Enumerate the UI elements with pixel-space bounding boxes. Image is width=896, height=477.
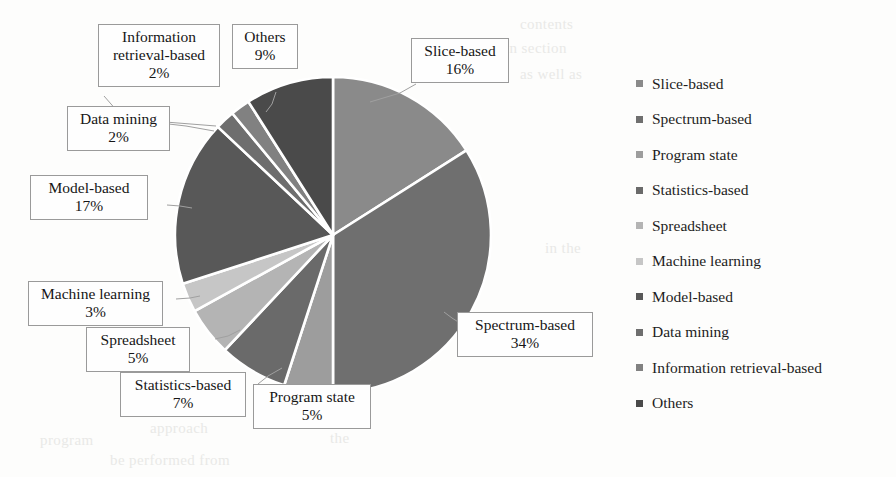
legend-item[interactable]: Machine learning <box>636 244 886 280</box>
callout-percent: 2% <box>75 128 162 146</box>
legend-swatch-icon <box>636 151 643 158</box>
callout-label: Others <box>244 28 285 45</box>
bleed-text: in section <box>505 40 567 57</box>
callout-label: Program state <box>269 388 355 405</box>
legend-item-label: Slice-based <box>652 75 723 93</box>
legend-item[interactable]: Spreadsheet <box>636 208 886 244</box>
callout-label: Model-based <box>49 179 130 196</box>
callout-label: Statistics-based <box>135 376 231 393</box>
callout-percent: 34% <box>465 334 585 352</box>
pie-chart-svg <box>173 75 493 395</box>
legend-item[interactable]: Program state <box>636 137 886 173</box>
callout-label-line1: Information <box>122 28 196 45</box>
callout-percent: 2% <box>106 64 212 82</box>
callout-spreadsheet: Spreadsheet 5% <box>86 327 190 372</box>
legend-swatch-icon <box>636 222 643 229</box>
bleed-text: as well as <box>520 66 582 83</box>
callout-percent: 7% <box>128 394 238 412</box>
callout-percent: 9% <box>240 46 290 64</box>
callout-machine-learning: Machine learning 3% <box>28 281 163 326</box>
legend-item-label: Statistics-based <box>652 181 748 199</box>
legend-item[interactable]: Slice-based <box>636 66 886 102</box>
legend-swatch-icon <box>636 80 643 87</box>
legend: Slice-basedSpectrum-basedProgram stateSt… <box>636 66 886 421</box>
bleed-text: program <box>40 432 94 449</box>
bleed-text: contents <box>520 16 573 33</box>
callout-others: Others 9% <box>232 24 298 69</box>
legend-item-label: Model-based <box>652 288 733 306</box>
legend-swatch-icon <box>636 329 643 336</box>
legend-swatch-icon <box>636 116 643 123</box>
legend-item-label: Spectrum-based <box>652 110 752 128</box>
callout-spectrum-based: Spectrum-based 34% <box>457 312 593 357</box>
bleed-text: in the <box>545 240 581 257</box>
callout-model-based: Model-based 17% <box>30 175 148 220</box>
legend-item-label: Program state <box>652 146 738 164</box>
legend-item-label: Information retrieval-based <box>652 359 822 377</box>
legend-item[interactable]: Model-based <box>636 279 886 315</box>
callout-statistics-based: Statistics-based 7% <box>120 372 246 417</box>
callout-percent: 5% <box>94 349 182 367</box>
legend-item-label: Others <box>652 394 693 412</box>
legend-swatch-icon <box>636 400 643 407</box>
callout-program-state: Program state 5% <box>253 384 371 429</box>
callout-slice-based: Slice-based 16% <box>411 38 509 83</box>
bleed-text: the <box>330 430 350 447</box>
callout-information-retrieval-based: Information retrieval-based 2% <box>98 24 220 87</box>
callout-percent: 3% <box>36 303 155 321</box>
callout-data-mining: Data mining 2% <box>67 106 170 151</box>
legend-item[interactable]: Others <box>636 386 886 422</box>
callout-label: Machine learning <box>41 285 150 302</box>
legend-item[interactable]: Statistics-based <box>636 173 886 209</box>
legend-item[interactable]: Spectrum-based <box>636 102 886 138</box>
pie-slices <box>175 77 491 393</box>
chart-page: contents in section as well as in the ap… <box>0 0 896 477</box>
legend-item[interactable]: Information retrieval-based <box>636 350 886 386</box>
legend-swatch-icon <box>636 258 643 265</box>
legend-item-label: Machine learning <box>652 252 761 270</box>
callout-percent: 16% <box>419 60 501 78</box>
legend-item-label: Spreadsheet <box>652 217 727 235</box>
callout-label: Spectrum-based <box>475 316 575 333</box>
legend-swatch-icon <box>636 187 643 194</box>
callout-percent: 5% <box>261 406 363 424</box>
pie-chart <box>173 75 493 395</box>
legend-swatch-icon <box>636 293 643 300</box>
legend-item-label: Data mining <box>652 323 729 341</box>
callout-label-line2: retrieval-based <box>113 46 205 63</box>
legend-swatch-icon <box>636 364 643 371</box>
callout-label: Slice-based <box>424 42 495 59</box>
callout-percent: 17% <box>38 197 140 215</box>
callout-label: Spreadsheet <box>101 331 176 348</box>
bleed-text: be performed from <box>110 452 230 469</box>
bleed-text: approach <box>150 420 208 437</box>
callout-label: Data mining <box>80 110 157 127</box>
legend-item[interactable]: Data mining <box>636 315 886 351</box>
